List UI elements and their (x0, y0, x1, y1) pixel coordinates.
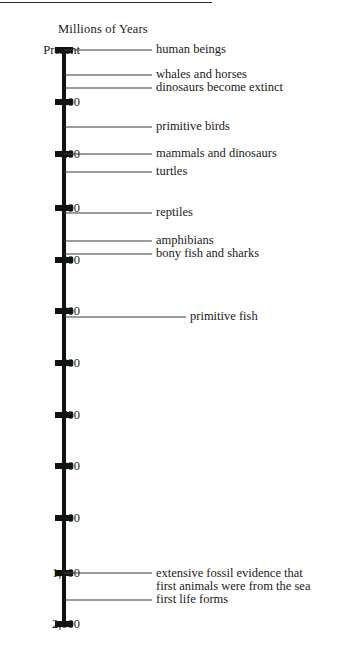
axis-scale-label: 400 (61, 253, 80, 268)
event-label: primitive fish (190, 310, 258, 324)
event-leader-line (64, 213, 152, 214)
event-leader-line (64, 154, 152, 155)
header-divider-rule (0, 2, 212, 3)
axis-scale-label: 2,000 (52, 617, 80, 632)
event-leader-line (64, 172, 152, 173)
event-label: primitive birds (156, 120, 230, 134)
axis-scale-label: 600 (61, 356, 80, 371)
axis-scale-label: 900 (61, 511, 80, 526)
event-label: human beings (156, 43, 226, 57)
chart-title: Millions of Years (58, 22, 148, 37)
event-leader-line (64, 75, 152, 76)
event-leader-line (64, 88, 152, 89)
event-leader-line (64, 241, 152, 242)
event-leader-line (64, 317, 186, 318)
timeline-axis-line (62, 48, 66, 625)
event-label: reptiles (156, 206, 193, 220)
event-label: dinosaurs become extinct (156, 81, 283, 95)
event-leader-line (64, 573, 152, 574)
event-leader-line (64, 50, 152, 51)
event-label: first life forms (156, 593, 228, 607)
event-label: extensive fossil evidence that first ani… (156, 566, 310, 593)
event-label: mammals and dinosaurs (156, 147, 277, 161)
axis-scale-label: 800 (61, 459, 80, 474)
event-leader-line (64, 127, 152, 128)
axis-scale-label: 700 (61, 408, 80, 423)
event-label: bony fish and sharks (156, 247, 259, 261)
event-label: turtles (156, 165, 187, 179)
event-leader-line (64, 600, 152, 601)
geological-timeline-chart: Millions of Years Present100200300400500… (0, 0, 342, 652)
axis-scale-label: 100 (61, 95, 80, 110)
event-leader-line (64, 254, 152, 255)
